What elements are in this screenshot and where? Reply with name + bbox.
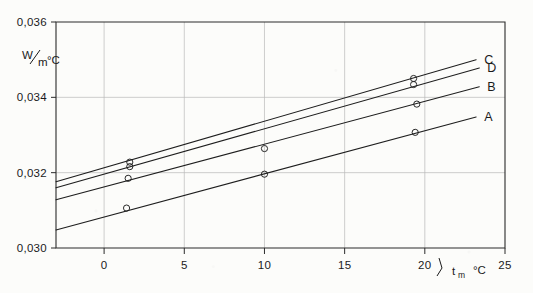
y-axis-title: W m °C	[22, 49, 60, 68]
chart-canvas: 0,0300,0320,0340,036 0510152025 ABDC W m…	[0, 0, 533, 293]
axis-frame	[56, 22, 505, 248]
y-tick-label: 0,030	[17, 242, 47, 254]
series-labels: ABDC	[484, 53, 496, 124]
y-axis-unit: °C	[47, 54, 60, 66]
grid-lines	[56, 22, 505, 248]
x-axis-subscript: m	[458, 270, 465, 280]
x-tick-label: 25	[498, 259, 511, 271]
series-line-B	[56, 87, 479, 200]
series-line-A	[56, 117, 476, 230]
series-label-A: A	[484, 110, 493, 124]
x-tick-label: 5	[181, 259, 188, 271]
x-tick-label: 0	[101, 259, 108, 271]
data-series	[56, 60, 479, 230]
axis-ticks	[51, 22, 505, 254]
y-tick-label: 0,032	[17, 167, 47, 179]
x-label-pointer	[437, 258, 442, 276]
y-tick-label: 0,036	[17, 16, 47, 28]
x-axis-title: t m °C	[437, 258, 486, 280]
series-line-C	[56, 60, 476, 182]
series-label-C: C	[484, 53, 493, 67]
series-label-B: B	[487, 80, 495, 94]
data-point-A	[123, 205, 129, 211]
x-axis-tick-labels: 0510152025	[101, 259, 512, 271]
x-tick-label: 20	[418, 259, 431, 271]
thermal-conductivity-chart: 0,0300,0320,0340,036 0510152025 ABDC W m…	[0, 0, 533, 293]
x-axis-symbol: t	[452, 265, 456, 277]
plot-frame	[56, 22, 505, 248]
x-axis-unit: °C	[473, 264, 486, 276]
data-point-markers	[123, 75, 419, 211]
x-tick-label: 15	[338, 259, 351, 271]
x-tick-label: 10	[258, 259, 271, 271]
y-axis-numerator: W	[22, 49, 33, 61]
y-tick-label: 0,034	[17, 91, 48, 103]
